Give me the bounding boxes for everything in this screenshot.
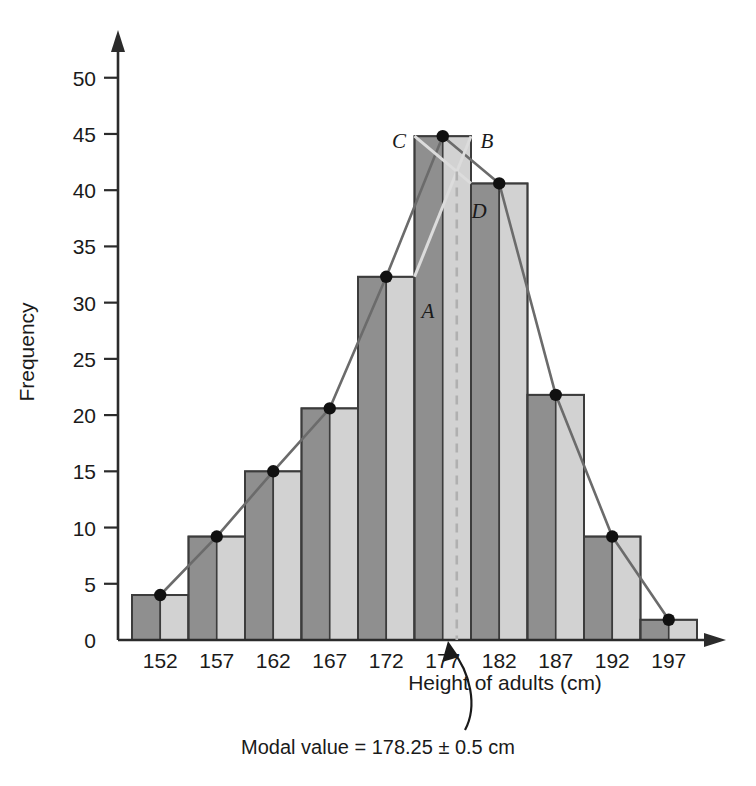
histogram-bar — [330, 408, 358, 640]
polygon-data-point — [380, 271, 392, 283]
y-tick-label: 45 — [73, 123, 96, 146]
polygon-data-point — [324, 402, 336, 414]
histogram-bar — [217, 537, 245, 640]
histogram-bar — [160, 595, 188, 640]
polygon-data-point — [154, 589, 166, 601]
modal-value-callout-text: Modal value = 178.25 ± 0.5 cm — [241, 736, 515, 758]
histogram-bar — [273, 471, 301, 640]
x-tick-label: 192 — [595, 649, 630, 672]
y-axis-title: Frequency — [15, 302, 38, 402]
y-axis-arrowhead — [111, 30, 125, 52]
y-tick-label: 20 — [73, 404, 96, 427]
x-tick-label: 162 — [256, 649, 291, 672]
y-tick-label: 35 — [73, 235, 96, 258]
histogram-bar — [499, 183, 527, 640]
histogram-bar — [132, 595, 160, 640]
x-axis-arrowhead — [704, 633, 726, 647]
histogram-bar — [471, 183, 499, 640]
histogram-bar — [245, 471, 273, 640]
x-tick-label: 182 — [482, 649, 517, 672]
polygon-data-point — [267, 465, 279, 477]
point-label-c: C — [392, 129, 407, 153]
y-tick-label: 25 — [73, 348, 96, 371]
x-ticks-group: 152157162167172177182187192197 — [143, 649, 687, 672]
histogram-svg: 05101520253035404550 1521571621671721771… — [0, 0, 756, 786]
y-tick-label: 15 — [73, 460, 96, 483]
polygon-data-point — [606, 530, 618, 542]
histogram-bar — [584, 537, 612, 640]
polygon-data-point — [437, 130, 449, 142]
y-tick-label: 0 — [84, 629, 96, 652]
x-tick-label: 157 — [199, 649, 234, 672]
y-tick-label: 5 — [84, 573, 96, 596]
x-axis-title: Height of adults (cm) — [408, 671, 602, 694]
point-label-d: D — [470, 199, 486, 223]
y-tick-label: 50 — [73, 67, 96, 90]
chart-figure: 05101520253035404550 1521571621671721771… — [0, 0, 756, 786]
point-label-a: A — [420, 299, 435, 323]
histogram-bar — [415, 136, 443, 640]
histogram-bar — [528, 395, 556, 640]
y-tick-label: 40 — [73, 179, 96, 202]
bars-group — [132, 136, 697, 640]
polygon-data-point — [550, 389, 562, 401]
x-tick-label: 152 — [143, 649, 178, 672]
y-tick-label: 30 — [73, 292, 96, 315]
histogram-bar — [612, 537, 640, 640]
polygon-data-point — [211, 530, 223, 542]
y-tick-label: 10 — [73, 517, 96, 540]
histogram-bar — [386, 277, 414, 640]
x-tick-label: 187 — [538, 649, 573, 672]
x-tick-label: 167 — [312, 649, 347, 672]
histogram-bar — [302, 408, 330, 640]
point-label-b: B — [481, 129, 494, 153]
polygon-data-point — [663, 614, 675, 626]
x-tick-label: 172 — [369, 649, 404, 672]
polygon-data-point — [493, 177, 505, 189]
y-ticks-group: 05101520253035404550 — [73, 67, 118, 652]
x-tick-label: 197 — [651, 649, 686, 672]
